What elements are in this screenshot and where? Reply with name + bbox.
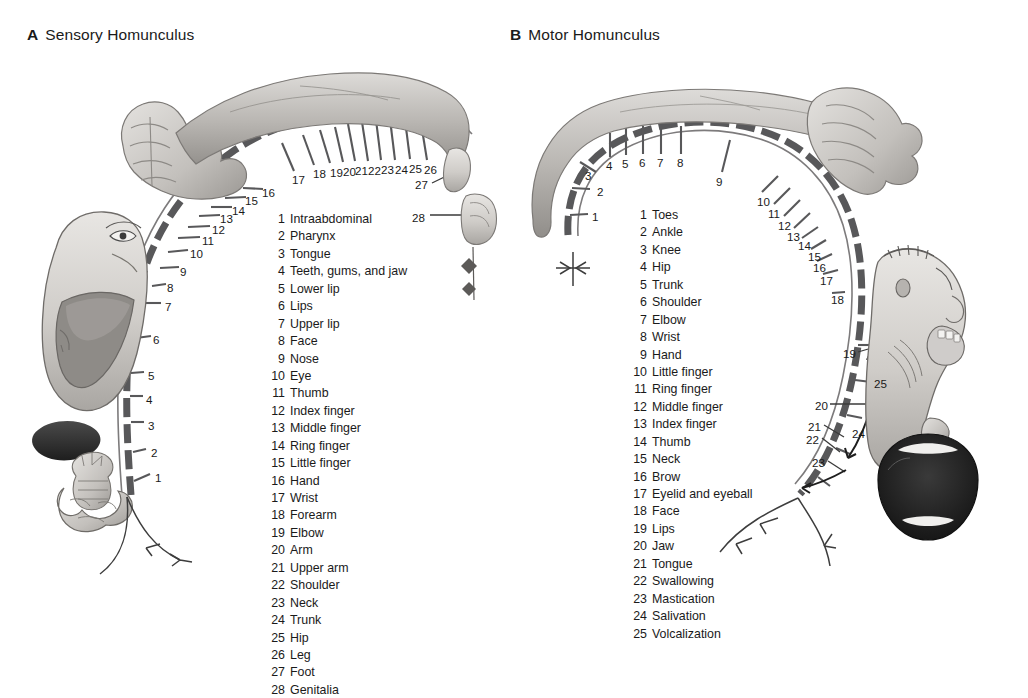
legend-item-number: 8 <box>630 329 647 346</box>
legend-item: 28Genitalia <box>268 682 407 698</box>
legend-item-label: Swallowing <box>652 574 714 588</box>
legend-item-label: Mastication <box>652 592 715 606</box>
legend-item-label: Eye <box>290 369 311 383</box>
arc-tick-label: 7 <box>657 157 663 169</box>
motor-ticks-left <box>570 162 596 215</box>
legend-item-label: Thumb <box>652 435 691 449</box>
legend-item-number: 18 <box>268 507 285 524</box>
legend-item-label: Salivation <box>652 609 706 623</box>
legend-item: 16Hand <box>268 473 407 490</box>
legend-item-number: 25 <box>268 630 285 647</box>
panel-a-tag: A <box>27 26 38 43</box>
sensory-hand <box>122 102 247 199</box>
arc-tick-label: 28 <box>412 212 425 224</box>
arc-tick-label: 1 <box>155 472 161 484</box>
legend-item: 21Upper arm <box>268 560 407 577</box>
motor-open-mouth <box>878 434 978 540</box>
motor-leader-lines <box>822 345 882 472</box>
legend-item-label: Little finger <box>652 365 713 379</box>
legend-item: 15Little finger <box>268 455 407 472</box>
arc-tick-label: 18 <box>313 168 326 180</box>
legend-item-label: Volcalization <box>652 627 721 641</box>
legend-item-label: Hip <box>290 631 309 645</box>
legend-item-number: 4 <box>268 263 285 280</box>
arc-tick-label: 14 <box>232 205 245 217</box>
arc-tick-label: 24 <box>395 164 408 176</box>
legend-item: 8Wrist <box>630 329 753 346</box>
arc-tick-label: 20 <box>343 166 356 178</box>
legend-item-label: Thumb <box>290 386 329 400</box>
arc-tick-label: 27 <box>415 179 428 191</box>
legend-item: 24Salivation <box>630 608 753 625</box>
legend-item-number: 24 <box>268 612 285 629</box>
legend-item: 12Index finger <box>268 403 407 420</box>
legend-item-label: Ankle <box>652 225 683 239</box>
legend-item: 15Neck <box>630 451 753 468</box>
sensory-tongue <box>32 421 100 460</box>
arc-tick-label: 10 <box>757 196 770 208</box>
legend-item-number: 2 <box>630 224 647 241</box>
legend-item-number: 25 <box>630 626 647 643</box>
legend-item-label: Face <box>652 504 680 518</box>
legend-item-number: 9 <box>268 351 285 368</box>
arc-tick-label: 3 <box>585 170 591 182</box>
legend-item-number: 15 <box>630 451 647 468</box>
legend-item: 10Little finger <box>630 364 753 381</box>
sensory-nerve-stems <box>100 497 192 574</box>
arc-tick-label: 8 <box>167 282 173 294</box>
legend-item-number: 16 <box>630 469 647 486</box>
legend-item-number: 1 <box>630 207 647 224</box>
legend-item-label: Jaw <box>652 539 674 553</box>
legend-item: 20Jaw <box>630 538 753 555</box>
legend-item-number: 18 <box>630 503 647 520</box>
legend-item: 2Ankle <box>630 224 753 241</box>
legend-item-number: 23 <box>268 595 285 612</box>
legend-item: 19Lips <box>630 521 753 538</box>
arc-tick-label: 24 <box>852 428 865 440</box>
legend-item-label: Ring finger <box>290 439 350 453</box>
sensory-intraabdominal <box>57 488 132 532</box>
arc-tick-label: 1 <box>592 211 598 223</box>
legend-item-label: Hip <box>652 260 671 274</box>
panel-b-title-text: Motor Homunculus <box>528 26 660 43</box>
legend-item-label: Upper arm <box>290 561 349 575</box>
motor-ticks-lower <box>818 345 874 486</box>
legend-item-number: 9 <box>630 347 647 364</box>
legend-item-label: Tongue <box>652 557 693 571</box>
legend-item-number: 24 <box>630 608 647 625</box>
legend-item-number: 16 <box>268 473 285 490</box>
legend-item: 7Elbow <box>630 312 753 329</box>
legend-item-number: 6 <box>630 294 647 311</box>
arc-tick-label: 9 <box>716 176 722 188</box>
legend-item-number: 26 <box>268 647 285 664</box>
legend-item-number: 3 <box>630 242 647 259</box>
legend-item-number: 22 <box>630 573 647 590</box>
legend-item-number: 10 <box>630 364 647 381</box>
arc-tick-label: 16 <box>813 262 826 274</box>
motor-hand <box>807 88 922 194</box>
legend-item-label: Trunk <box>290 613 321 627</box>
legend-item-label: Elbow <box>652 313 686 327</box>
legend-item-label: Arm <box>290 543 313 557</box>
legend-item: 17Wrist <box>268 490 407 507</box>
legend-item-label: Lips <box>290 299 313 313</box>
sensory-artwork <box>32 73 496 574</box>
panel-b-title: BMotor Homunculus <box>510 26 660 44</box>
legend-item-label: Genitalia <box>290 683 339 697</box>
legend-item-label: Tongue <box>290 247 331 261</box>
legend-item: 1Intraabdominal <box>268 211 407 228</box>
arc-tick-label: 4 <box>146 394 152 406</box>
legend-item-label: Middle finger <box>652 400 723 414</box>
sensory-legend-list: 1Intraabdominal2Pharynx3Tongue4Teeth, gu… <box>268 211 407 698</box>
legend-item-label: Index finger <box>652 417 717 431</box>
legend-item: 3Knee <box>630 242 753 259</box>
panel-a-title-text: Sensory Homunculus <box>45 26 194 43</box>
legend-item-number: 19 <box>630 521 647 538</box>
legend-item-label: Shoulder <box>652 295 702 309</box>
legend-item-label: Ring finger <box>652 382 712 396</box>
legend-item-label: Nose <box>290 352 319 366</box>
arc-tick-label: 6 <box>639 157 645 169</box>
legend-item-label: Neck <box>652 452 680 466</box>
legend-item-number: 14 <box>630 434 647 451</box>
arc-tick-label: 12 <box>212 224 225 236</box>
